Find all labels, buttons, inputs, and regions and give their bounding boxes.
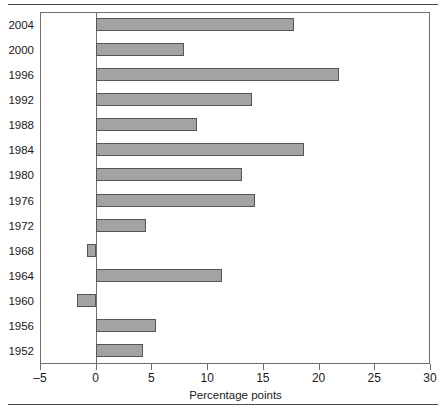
- bar-row: [40, 314, 430, 338]
- y-axis-category-labels: 2004200019961992198819841980197619721968…: [0, 12, 36, 364]
- x-tick-label-0: 0: [76, 371, 116, 385]
- y-axis-label-1968: 1968: [0, 239, 34, 263]
- x-tick-5: [151, 364, 152, 370]
- x-axis-title-text: Percentage points: [189, 389, 282, 401]
- y-axis-label-1976: 1976: [0, 189, 34, 213]
- bar-1956: [96, 319, 156, 332]
- y-axis-label-2000: 2000: [0, 38, 34, 62]
- bar-row: [40, 13, 430, 37]
- bar-1992: [96, 93, 252, 106]
- bar-row: [40, 138, 430, 162]
- y-axis-label-1964: 1964: [0, 264, 34, 288]
- bar-chart-figure: 2004200019961992198819841980197619721968…: [0, 0, 446, 416]
- y-axis-label-1956: 1956: [0, 314, 34, 338]
- bar-1952: [96, 344, 143, 357]
- x-tick-label--5: –5: [20, 371, 60, 385]
- bar-1972: [96, 219, 146, 232]
- y-axis-label-1960: 1960: [0, 289, 34, 313]
- x-tick-label-20: 20: [299, 371, 339, 385]
- x-tick-label-15: 15: [243, 371, 283, 385]
- x-axis-tick-labels: –5051015202530: [0, 371, 446, 387]
- x-tick-0: [96, 364, 97, 370]
- y-axis-label-1988: 1988: [0, 113, 34, 137]
- bar-row: [40, 113, 430, 137]
- bar-1980: [96, 168, 242, 181]
- y-axis-label-1972: 1972: [0, 214, 34, 238]
- bar-2004: [96, 18, 294, 31]
- y-axis-label-1952: 1952: [0, 339, 34, 363]
- bar-row: [40, 239, 430, 263]
- bar-1960: [77, 294, 96, 307]
- y-axis-label-1980: 1980: [0, 163, 34, 187]
- x-tick-label-10: 10: [187, 371, 227, 385]
- y-axis-label-1984: 1984: [0, 138, 34, 162]
- bar-2000: [96, 43, 184, 56]
- y-axis-label-1992: 1992: [0, 88, 34, 112]
- bar-1976: [96, 194, 255, 207]
- bar-row: [40, 264, 430, 288]
- x-tick-20: [319, 364, 320, 370]
- bar-row: [40, 63, 430, 87]
- x-tick-10: [207, 364, 208, 370]
- bar-row: [40, 38, 430, 62]
- x-tick-label-25: 25: [354, 371, 394, 385]
- x-tick-label-30: 30: [410, 371, 446, 385]
- x-axis-title: Percentage points: [0, 389, 446, 401]
- bar-row: [40, 189, 430, 213]
- bar-row: [40, 88, 430, 112]
- bar-row: [40, 163, 430, 187]
- y-axis-label-2004: 2004: [0, 13, 34, 37]
- bar-1996: [96, 68, 339, 81]
- top-horizontal-rule: [8, 4, 438, 5]
- y-axis-label-1996: 1996: [0, 63, 34, 87]
- bar-1984: [96, 143, 304, 156]
- x-tick-25: [374, 364, 375, 370]
- bar-1964: [96, 269, 222, 282]
- bar-row: [40, 214, 430, 238]
- bar-row: [40, 289, 430, 313]
- bar-row: [40, 339, 430, 363]
- bottom-horizontal-rule: [8, 404, 438, 405]
- x-tick-15: [263, 364, 264, 370]
- x-tick--5: [40, 364, 41, 370]
- x-tick-30: [430, 364, 431, 370]
- bars-layer: [40, 12, 430, 364]
- bar-1968: [87, 244, 96, 257]
- bar-1988: [96, 118, 197, 131]
- x-tick-label-5: 5: [131, 371, 171, 385]
